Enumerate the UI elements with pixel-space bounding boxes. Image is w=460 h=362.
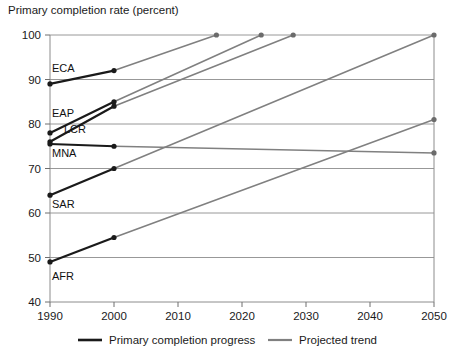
series-label-afr: AFR [52, 270, 74, 282]
projection-endpoint-mna [431, 150, 436, 155]
data-point-lcr-2000 [111, 104, 116, 109]
projection-endpoint-eca [214, 32, 219, 37]
chart-container: Primary completion rate (percent) 405060… [0, 0, 460, 362]
x-tick-label-2050: 2050 [421, 310, 447, 322]
y-tick-label-60: 60 [28, 207, 41, 219]
y-tick-label-40: 40 [28, 296, 41, 308]
progress-line-mna [50, 144, 114, 146]
projection-endpoint-afr [431, 117, 436, 122]
projection-endpoint-eap [259, 32, 264, 37]
y-tick-label-100: 100 [22, 29, 41, 41]
data-point-afr-1990 [47, 259, 52, 264]
progress-line-sar [50, 169, 114, 196]
data-point-sar-2000 [111, 166, 116, 171]
x-tick-label-2020: 2020 [229, 310, 255, 322]
projection-endpoint-sar [431, 32, 436, 37]
projection-line-afr [114, 120, 434, 238]
data-point-mna-1990 [47, 141, 52, 146]
projection-endpoint-lcr [291, 32, 296, 37]
projection-line-sar [114, 35, 434, 169]
series-label-mna: MNA [52, 147, 77, 159]
series-label-eap: EAP [52, 107, 74, 119]
y-tick-label-50: 50 [28, 252, 41, 264]
data-point-afr-2000 [111, 235, 116, 240]
projection-line-eca [114, 35, 216, 71]
projection-line-lcr [114, 35, 293, 106]
y-tick-label-70: 70 [28, 163, 41, 175]
data-point-eca-1990 [47, 81, 52, 86]
x-tick-label-2010: 2010 [165, 310, 191, 322]
series-label-lcr: LCR [64, 123, 86, 135]
progress-line-afr [50, 237, 114, 261]
x-tick-label-2040: 2040 [357, 310, 383, 322]
projection-line-mna [114, 146, 434, 153]
x-tick-label-2000: 2000 [101, 310, 127, 322]
x-tick-label-2030: 2030 [293, 310, 319, 322]
chart-svg: 4050607080901001990200020102020203020402… [0, 0, 460, 362]
data-point-eap-1990 [47, 130, 52, 135]
data-point-mna-2000 [111, 144, 116, 149]
y-tick-label-90: 90 [28, 74, 41, 86]
data-point-eap-2000 [111, 99, 116, 104]
legend-label-projected: Projected trend [299, 334, 377, 346]
legend-label-progress: Primary completion progress [109, 334, 256, 346]
series-label-eca: ECA [52, 62, 75, 74]
series-label-sar: SAR [52, 198, 75, 210]
data-point-eca-2000 [111, 68, 116, 73]
x-tick-label-1990: 1990 [37, 310, 63, 322]
y-tick-label-80: 80 [28, 118, 41, 130]
